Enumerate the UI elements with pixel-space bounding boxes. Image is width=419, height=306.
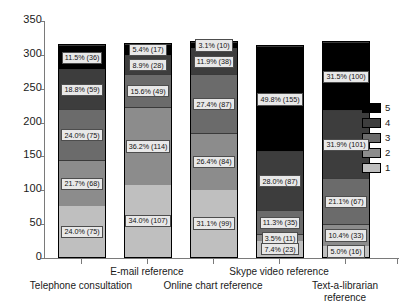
bar-2: 34.0% (107)36.2% (114)15.6% (49)8.9% (28… [124,43,172,258]
bar-4: 7.4% (23)3.5% (11)11.3% (35)28.0% (87)49… [256,45,304,258]
segment-value-label: 3.5% (11) [262,232,299,244]
bar-segment: 34.0% (107) [125,185,171,257]
segment-value-label: 36.2% (114) [126,140,171,152]
x-tick-mark [397,259,398,264]
y-tick-mark [41,55,45,56]
category-label-3: Online chart reference [153,280,273,292]
bar-segment: 8.9% (28) [125,55,171,74]
x-tick-mark [279,259,280,264]
bar-5: 5.0% (16)10.4% (33)21.1% (67)31.9% (101)… [322,41,370,258]
bar-segment: 36.2% (114) [125,107,171,184]
bar-segment: 11.3% (35) [257,210,303,234]
category-label-2: E-mail reference [87,266,207,278]
legend-label: 4 [385,118,390,128]
legend-swatch [362,163,381,173]
y-tick-mark [41,190,45,191]
segment-value-label: 31.1% (99) [193,217,234,229]
y-tick-label: 150 [23,148,42,160]
bar-segment: 3.1% (10) [191,42,237,49]
bar-segment: 18.8% (59) [59,69,105,109]
segment-value-label: 8.9% (28) [129,59,166,71]
stacked-bar-chart: 050100150200250300350 24.0% (75)21.7% (6… [0,0,419,306]
category-label-4: Skype video reference [219,266,339,278]
bar-segment: 3.5% (11) [257,234,303,241]
y-tick-mark [41,156,45,157]
bar-segment: 24.0% (75) [59,109,105,160]
x-tick-mark [147,259,148,264]
segment-value-label: 11.9% (38) [194,56,235,68]
y-tick-label: 100 [23,182,42,194]
x-tick-mark [81,259,82,264]
category-label-1: Telephone consultation [21,280,141,292]
bar-segment: 31.5% (100) [323,42,369,110]
y-tick-label: 250 [23,81,42,93]
y-tick-mark [41,21,45,22]
segment-value-label: 34.0% (107) [125,215,170,227]
bar-segment: 15.6% (49) [125,74,171,107]
bar-segment: 27.4% (87) [191,74,237,133]
bar-segment: 24.0% (75) [59,206,105,257]
segment-value-label: 3.1% (10) [195,39,232,51]
legend-item-1: 1 [362,161,390,174]
segment-value-label: 15.6% (49) [127,85,168,97]
bar-segment: 5.4% (17) [125,44,171,56]
legend-item-4: 4 [362,116,390,129]
segment-value-label: 31.9% (101) [323,139,368,151]
category-label-5: Text-a-librarian reference [285,280,405,303]
legend-item-5: 5 [362,101,390,114]
segment-value-label: 49.8% (155) [257,93,302,105]
segment-value-label: 31.5% (100) [323,71,368,83]
bar-segment: 10.4% (33) [323,224,369,246]
legend-label: 5 [385,103,390,113]
segment-value-label: 7.4% (23) [261,243,298,255]
bar-segment: 5.0% (16) [323,246,369,257]
bar-segment: 11.9% (38) [191,48,237,74]
legend-label: 2 [385,148,390,158]
y-tick-label: 50 [30,216,42,228]
segment-value-label: 24.0% (75) [61,226,102,238]
y-tick-mark [41,89,45,90]
legend-label: 3 [385,133,390,143]
bar-3: 31.1% (99)26.4% (84)27.4% (87)11.9% (38)… [190,41,238,258]
segment-value-label: 21.1% (67) [325,196,366,208]
bar-segment: 11.5% (36) [59,45,105,69]
y-tick-label: 0 [36,250,42,262]
segment-value-label: 11.5% (36) [62,52,103,64]
legend-label: 1 [385,163,390,173]
bar-segment: 26.4% (84) [191,133,237,190]
bar-segment: 21.1% (67) [323,178,369,223]
legend-swatch [362,103,381,113]
segment-value-label: 24.0% (75) [61,129,102,141]
segment-value-label: 5.0% (16) [327,245,364,257]
bar-segment: 31.1% (99) [191,190,237,257]
segment-value-label: 10.4% (33) [325,229,366,241]
x-tick-mark [345,259,346,264]
y-tick-label: 300 [23,47,42,59]
bar-segment: 21.7% (68) [59,160,105,206]
segment-value-label: 28.0% (87) [259,175,300,187]
legend-swatch [362,118,381,128]
segment-value-label: 21.7% (68) [61,178,102,190]
segment-value-label: 5.4% (17) [129,44,166,56]
y-tick-label: 200 [23,115,42,127]
y-tick-mark [41,123,45,124]
segment-value-label: 11.3% (35) [260,217,301,229]
y-tick-label: 350 [23,13,42,25]
x-tick-mark [213,259,214,264]
y-tick-mark [41,258,45,259]
segment-value-label: 18.8% (59) [61,84,102,96]
segment-value-label: 26.4% (84) [193,156,234,168]
bar-1: 24.0% (75)21.7% (68)24.0% (75)18.8% (59)… [58,44,106,258]
segment-value-label: 27.4% (87) [193,98,234,110]
bar-segment: 49.8% (155) [257,46,303,151]
y-tick-mark [41,224,45,225]
bar-segment: 28.0% (87) [257,151,303,210]
